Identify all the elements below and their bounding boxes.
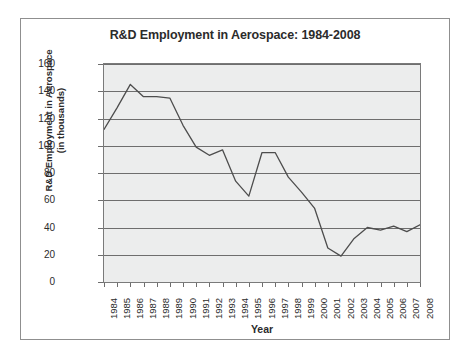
x-tick-label-2002: 2002 xyxy=(345,285,356,319)
x-tick-label-2007: 2007 xyxy=(410,285,421,319)
x-tick-label-1988: 1988 xyxy=(160,285,171,319)
x-tick-label-1993: 1993 xyxy=(226,285,237,319)
x-tick-label-1991: 1991 xyxy=(200,285,211,319)
data-line-svg xyxy=(104,64,420,282)
y-axis-title-line2: (in thousands) xyxy=(54,88,65,153)
x-tick-label-1984: 1984 xyxy=(108,285,119,319)
x-tick-label-1998: 1998 xyxy=(292,285,303,319)
x-tick-label-1994: 1994 xyxy=(239,285,250,319)
x-tick-label-1985: 1985 xyxy=(121,285,132,319)
x-tick-label-1990: 1990 xyxy=(187,285,198,319)
chart-frame: R&D Employment in Aerospace: 1984-2008 R… xyxy=(20,18,450,340)
x-tick-label-1999: 1999 xyxy=(305,285,316,319)
y-tick-label-20: 20 xyxy=(15,249,55,260)
x-tick-label-2008: 2008 xyxy=(424,285,435,319)
y-tick-label-160: 160 xyxy=(15,58,55,69)
x-tick-label-2000: 2000 xyxy=(318,285,329,319)
y-tick-label-100: 100 xyxy=(15,140,55,151)
x-tick-label-1995: 1995 xyxy=(252,285,263,319)
x-tick-label-1997: 1997 xyxy=(279,285,290,319)
chart-title: R&D Employment in Aerospace: 1984-2008 xyxy=(21,28,449,42)
x-tick-label-2004: 2004 xyxy=(371,285,382,319)
x-tick-label-2001: 2001 xyxy=(331,285,342,319)
x-tick-label-2003: 2003 xyxy=(358,285,369,319)
x-axis-title: Year xyxy=(103,323,421,335)
x-tick-label-2006: 2006 xyxy=(397,285,408,319)
y-tick-label-80: 80 xyxy=(15,167,55,178)
y-tick-label-0: 0 xyxy=(15,276,55,287)
y-tick-label-140: 140 xyxy=(15,85,55,96)
x-tick-label-1996: 1996 xyxy=(266,285,277,319)
y-tick-label-120: 120 xyxy=(15,113,55,124)
plot-area xyxy=(103,63,421,283)
x-tick-label-1986: 1986 xyxy=(134,285,145,319)
x-tick-label-1987: 1987 xyxy=(147,285,158,319)
series-line-rd-employment xyxy=(104,84,420,256)
x-axis-labels: 1984198519861987198819891990199119921993… xyxy=(103,285,421,323)
y-tick-label-60: 60 xyxy=(15,194,55,205)
x-tick-label-1992: 1992 xyxy=(213,285,224,319)
x-tick-label-1989: 1989 xyxy=(173,285,184,319)
y-tick-label-40: 40 xyxy=(15,222,55,233)
x-tick-label-2005: 2005 xyxy=(384,285,395,319)
